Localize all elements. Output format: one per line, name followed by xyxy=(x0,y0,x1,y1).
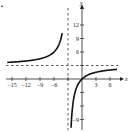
y-tick-label: −9 xyxy=(73,117,79,123)
x-tick-label: −9 xyxy=(37,82,43,88)
y-axis-label: y xyxy=(79,0,83,6)
x-axis-label: x xyxy=(124,76,128,82)
part-label: • xyxy=(1,3,3,9)
x-tick-label: −12 xyxy=(21,82,30,88)
x-tick-label: −6 xyxy=(51,82,57,88)
curves xyxy=(7,33,117,128)
x-tick-label: 6 xyxy=(109,82,112,88)
y-tick-label: 6 xyxy=(76,49,79,55)
function-graph: • x y −15−12−9−6361296−9 xyxy=(0,0,130,132)
curve-left-branch xyxy=(7,33,62,62)
x-tick-label: −15 xyxy=(7,82,16,88)
x-axis-arrow-icon xyxy=(120,77,124,81)
y-tick-label: 9 xyxy=(76,36,79,42)
plot-area: • x y −15−12−9−6361296−9 xyxy=(0,0,130,132)
x-tick-label: 3 xyxy=(95,82,98,88)
axes: x y xyxy=(6,0,128,130)
asymptotes xyxy=(6,8,118,130)
y-tick-label: 12 xyxy=(73,22,79,28)
